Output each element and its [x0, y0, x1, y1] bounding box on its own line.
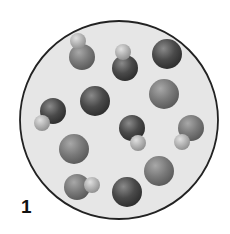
single-atom — [144, 156, 174, 186]
atom-light — [84, 177, 100, 193]
atom-medium — [59, 134, 89, 164]
single-atom — [152, 39, 182, 69]
panel-label: 1 — [21, 197, 32, 216]
single-atom — [149, 79, 179, 109]
single-atom — [112, 177, 142, 207]
atom-medium — [149, 79, 179, 109]
particle-diagram — [0, 0, 230, 234]
atom-light — [115, 44, 131, 60]
atom-light — [70, 33, 86, 49]
atom-dark — [152, 39, 182, 69]
atom-light — [130, 135, 146, 151]
single-atom — [80, 86, 110, 116]
atom-medium — [144, 156, 174, 186]
atom-light — [34, 115, 50, 131]
atom-light — [174, 134, 190, 150]
atom-dark — [112, 177, 142, 207]
atom-dark — [80, 86, 110, 116]
single-atom — [59, 134, 89, 164]
